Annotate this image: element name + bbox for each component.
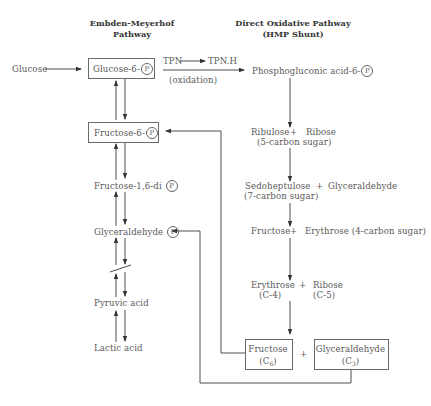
lactic-acid-label: Lactic acid bbox=[94, 343, 143, 353]
tpn-label: TPN bbox=[163, 56, 182, 66]
header-right-line2: (HMP Shunt) bbox=[230, 29, 356, 40]
embden-meyerhof-header: Embden-Meyerhof Pathway bbox=[82, 18, 182, 40]
oxidation-label: (oxidation) bbox=[169, 75, 217, 85]
glucose-6p-text: Glucose-6- bbox=[93, 64, 140, 74]
phosphate-icon: P bbox=[146, 127, 158, 139]
ribose-c5-label: Ribose bbox=[313, 280, 343, 290]
header-right-line1: Direct Oxidative Pathway bbox=[230, 18, 356, 29]
glyceraldehyde-p-text: Glyceraldehyde bbox=[94, 227, 163, 237]
seven-carbon-note: (7-carbon sugar) bbox=[244, 191, 318, 201]
header-left-line2: Pathway bbox=[82, 29, 182, 40]
glyceraldehyde-c3-text: Glyceraldehyde bbox=[314, 344, 387, 354]
ribulose-label: Ribulose bbox=[251, 127, 289, 137]
plus-sign: + bbox=[290, 127, 297, 137]
glucose-6p-label: Glucose-6-P bbox=[93, 63, 153, 75]
glyceraldehyde-label: Glyceraldehyde bbox=[328, 181, 397, 191]
glyceraldehyde-p-label: Glyceraldehyde P bbox=[94, 226, 179, 238]
five-carbon-note: (5-carbon sugar) bbox=[257, 137, 331, 147]
fructose-6p-label: Fructose-6-P bbox=[94, 127, 158, 139]
plus-sign: + bbox=[299, 280, 306, 290]
fructose-16-dip-text: Fructose-1,6-di bbox=[94, 181, 162, 191]
fructose-c6-text: Fructose bbox=[245, 344, 291, 354]
c5-note: (C-5) bbox=[313, 290, 335, 300]
phosphate-icon: P bbox=[141, 63, 153, 75]
note-suffix: ) bbox=[356, 356, 359, 366]
note-prefix: (C bbox=[342, 356, 352, 366]
glucose-label: Glucose bbox=[12, 64, 47, 74]
phosphate-icon: P bbox=[166, 180, 178, 192]
glyceraldehyde-c3-note: (C3) bbox=[314, 356, 387, 369]
glyceraldehyde-c3-label: Glyceraldehyde (C3) bbox=[314, 344, 387, 369]
fructose-c6-label: Fructose (C6) bbox=[245, 344, 291, 369]
phosphogluconic-acid-label: Phosphogluconic acid-6-P bbox=[252, 65, 373, 77]
hmp-shunt-header: Direct Oxidative Pathway (HMP Shunt) bbox=[230, 18, 356, 40]
fructose-6p-text: Fructose-6- bbox=[94, 128, 145, 138]
plus-sign: + bbox=[316, 181, 323, 191]
fructose-c6-note: (C6) bbox=[245, 356, 291, 369]
note-suffix: ) bbox=[273, 356, 276, 366]
pyruvic-acid-label: Pyruvic acid bbox=[94, 298, 149, 308]
plus-sign: + bbox=[290, 226, 297, 236]
phosphogluconic-text: Phosphogluconic acid-6- bbox=[252, 66, 360, 76]
phosphate-icon: P bbox=[361, 65, 373, 77]
plus-sign: + bbox=[300, 349, 307, 359]
erythrose-label: Erythrose bbox=[251, 280, 295, 290]
tpnh-label: TPN.H bbox=[208, 56, 237, 66]
c4-note: (C-4) bbox=[259, 290, 281, 300]
header-left-line1: Embden-Meyerhof bbox=[82, 18, 182, 29]
sedoheptulose-label: Sedoheptulose bbox=[245, 181, 310, 191]
note-prefix: (C bbox=[259, 356, 269, 366]
erythrose-4c-label: Erythrose (4-carbon sugar) bbox=[305, 226, 426, 236]
fructose-16-diphosphate-label: Fructose-1,6-di P bbox=[94, 180, 178, 192]
ribose-label: Ribose bbox=[306, 127, 336, 137]
phosphate-icon: P bbox=[167, 226, 179, 238]
fructose-label: Fructose bbox=[251, 226, 290, 236]
